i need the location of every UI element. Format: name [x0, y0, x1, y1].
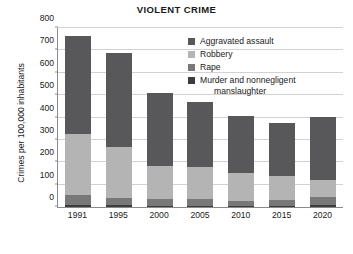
bar-segment[interactable] — [228, 116, 254, 173]
legend-label: Rape — [200, 62, 221, 73]
x-axis-tick-labels: 1991199520002005201020152020 — [57, 210, 343, 220]
legend-label: Robbery — [200, 49, 232, 60]
bar-segment[interactable] — [187, 206, 213, 207]
bar-segment[interactable] — [269, 206, 295, 207]
legend-item[interactable]: Murder and nonnegligentmanslaughter — [188, 75, 296, 96]
y-axis-title: Crimes per 100,000 inhabitants — [16, 38, 26, 208]
bar-segment[interactable] — [310, 180, 336, 197]
legend-item[interactable]: Aggravated assault — [188, 36, 296, 47]
y-axis-tick-label: 400 — [40, 103, 54, 113]
bar-segment[interactable] — [310, 197, 336, 205]
bar-segment[interactable] — [147, 206, 173, 207]
bar-segment[interactable] — [147, 93, 173, 166]
x-axis-tick-label: 1995 — [105, 210, 131, 220]
bar-segment[interactable] — [106, 147, 132, 197]
x-axis-tick-label: 2015 — [269, 210, 295, 220]
legend-swatch-icon — [188, 51, 195, 58]
y-axis-tick-label: 300 — [40, 125, 54, 135]
bar-segment[interactable] — [228, 173, 254, 201]
bar-segment[interactable] — [106, 53, 132, 148]
x-axis-tick-label: 1991 — [64, 210, 90, 220]
chart-legend: Aggravated assaultRobberyRapeMurder and … — [188, 36, 296, 99]
bar-segment[interactable] — [269, 123, 295, 176]
bar-segment[interactable] — [65, 134, 91, 195]
bar-segment[interactable] — [310, 117, 336, 180]
y-axis-tick-label: 100 — [40, 170, 54, 180]
bar-group-1991[interactable] — [65, 28, 91, 207]
legend-swatch-icon — [188, 64, 195, 71]
bar-segment[interactable] — [187, 102, 213, 167]
legend-swatch-icon — [188, 38, 195, 45]
y-axis-tick-label: 500 — [40, 80, 54, 90]
y-axis-tick-label: 700 — [40, 35, 54, 45]
bar-segment[interactable] — [147, 199, 173, 206]
bar-segment[interactable] — [65, 205, 91, 207]
y-axis-tick-label: 0 — [49, 192, 54, 202]
bar-segment[interactable] — [106, 198, 132, 206]
x-axis-tick-label: 2010 — [228, 210, 254, 220]
bar-segment[interactable] — [228, 206, 254, 207]
y-axis-tick-label: 800 — [40, 13, 54, 23]
bar-segment[interactable] — [106, 205, 132, 207]
legend-label: Aggravated assault — [200, 36, 274, 47]
bar-segment[interactable] — [65, 195, 91, 204]
x-axis-tick-label: 2000 — [146, 210, 172, 220]
bar-segment[interactable] — [147, 166, 173, 199]
legend-item[interactable]: Robbery — [188, 49, 296, 60]
bar-segment[interactable] — [310, 205, 336, 207]
legend-swatch-icon — [188, 77, 195, 84]
bar-segment[interactable] — [269, 176, 295, 200]
bar-segment[interactable] — [65, 36, 91, 133]
legend-label-continuation: manslaughter — [200, 86, 296, 97]
y-axis-tick-label: 200 — [40, 147, 54, 157]
legend-label: Murder and nonnegligentmanslaughter — [200, 75, 296, 96]
bar-group-2000[interactable] — [147, 28, 173, 207]
bar-group-2020[interactable] — [310, 28, 336, 207]
bar-segment[interactable] — [187, 199, 213, 206]
violent-crime-chart: VIOLENT CRIME Crimes per 100,000 inhabit… — [0, 0, 353, 254]
bar-segment[interactable] — [187, 167, 213, 199]
bar-group-1995[interactable] — [106, 28, 132, 207]
legend-item[interactable]: Rape — [188, 62, 296, 73]
x-axis-tick-label: 2005 — [187, 210, 213, 220]
x-axis-tick-label: 2020 — [309, 210, 335, 220]
y-axis-tick-label: 600 — [40, 58, 54, 68]
